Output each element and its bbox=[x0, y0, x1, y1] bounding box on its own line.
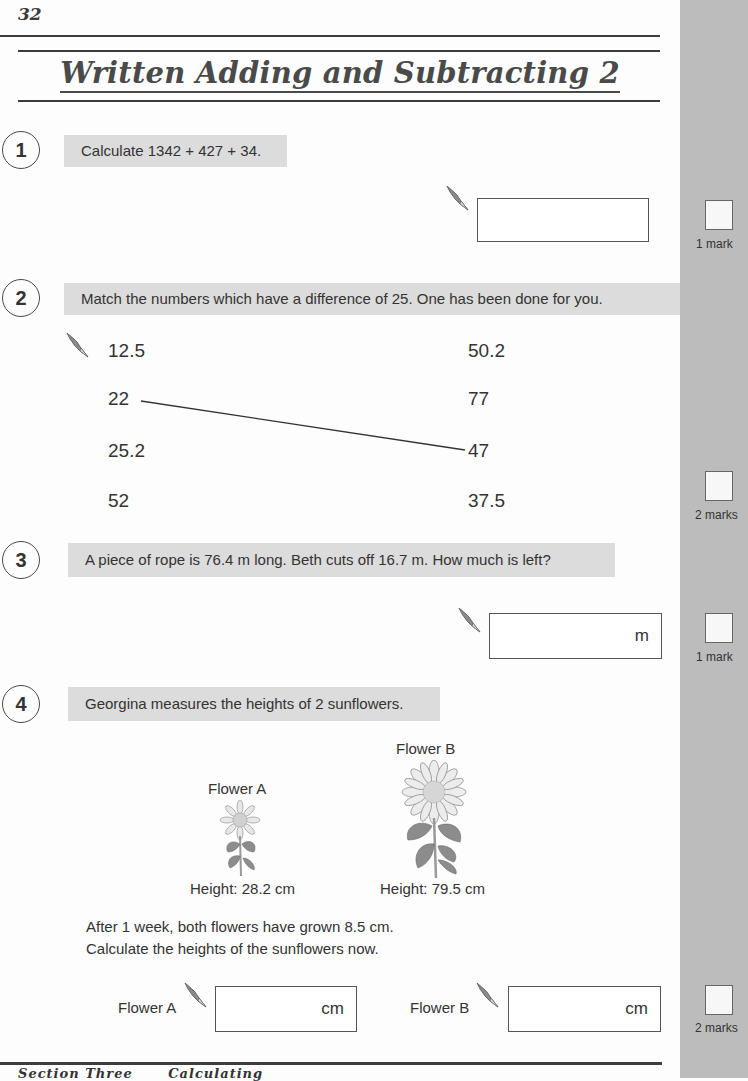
footer-topic-name: Calculating bbox=[168, 1066, 263, 1081]
marks-label-q4: 2 marks bbox=[695, 1021, 738, 1035]
question-4-instruction-2: Calculate the heights of the sunflowers … bbox=[86, 940, 379, 957]
flower-a-label: Flower A bbox=[208, 780, 266, 797]
answer-label-flower-a: Flower A bbox=[118, 999, 176, 1016]
question-4-instruction-1: After 1 week, both flowers have grown 8.… bbox=[86, 918, 394, 935]
unit-label-cm-b: cm bbox=[625, 987, 648, 1031]
marks-label-q3: 1 mark bbox=[696, 650, 733, 664]
marks-label-q1: 1 mark bbox=[696, 237, 733, 251]
answer-box-flower-b[interactable]: cm bbox=[508, 986, 661, 1032]
mark-box-q2[interactable] bbox=[705, 471, 733, 501]
answer-box-flower-a[interactable]: cm bbox=[215, 986, 357, 1032]
unit-label-m: m bbox=[635, 614, 649, 658]
unit-label-cm-a: cm bbox=[321, 987, 344, 1031]
question-3-prompt: A piece of rope is 76.4 m long. Beth cut… bbox=[68, 543, 615, 577]
flower-b-label: Flower B bbox=[396, 740, 455, 757]
footer-section-name: Section Three bbox=[18, 1066, 133, 1081]
footer-rule bbox=[0, 1062, 662, 1065]
footer-section: Section Three Calculating bbox=[18, 1066, 263, 1081]
example-match-line bbox=[0, 0, 680, 1078]
marks-sidebar bbox=[680, 0, 748, 1078]
marks-label-q2: 2 marks bbox=[695, 508, 738, 522]
mark-box-q4[interactable] bbox=[705, 985, 733, 1015]
pen-nib-icon bbox=[456, 605, 486, 635]
mark-box-q1[interactable] bbox=[705, 200, 733, 230]
sunflower-a-illustration bbox=[216, 800, 266, 876]
pen-nib-icon bbox=[474, 980, 504, 1010]
sunflower-b-illustration bbox=[390, 760, 480, 880]
answer-box-q3[interactable]: m bbox=[489, 613, 662, 659]
mark-box-q3[interactable] bbox=[705, 613, 733, 643]
answer-label-flower-b: Flower B bbox=[410, 999, 469, 1016]
flower-a-height: Height: 28.2 cm bbox=[190, 880, 295, 897]
question-number-3: 3 bbox=[2, 541, 40, 579]
question-number-4: 4 bbox=[2, 685, 40, 723]
flower-b-height: Height: 79.5 cm bbox=[380, 880, 485, 897]
pen-nib-icon bbox=[182, 980, 212, 1010]
question-4-prompt: Georgina measures the heights of 2 sunfl… bbox=[68, 687, 440, 721]
